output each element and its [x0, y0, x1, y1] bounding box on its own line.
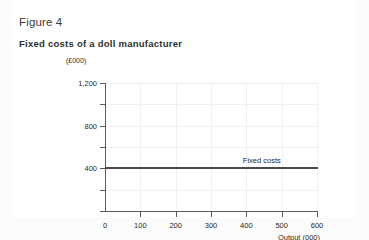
- fixed-costs-chart: (£000) Fixed costs Output (000) 4008001,…: [12, 55, 356, 218]
- x-axis-tick-label: 400: [240, 221, 253, 224]
- y-axis-tick: [100, 211, 105, 212]
- figure-card: Figure 4 Fixed costs of a doll manufactu…: [12, 0, 356, 218]
- y-axis-tick-label: 1,200: [78, 79, 97, 88]
- y-axis-unit-label: (£000): [66, 57, 86, 64]
- gridline-vertical: [282, 83, 283, 211]
- gridline-vertical: [211, 83, 212, 211]
- y-axis-tick: [100, 104, 105, 105]
- y-axis-tick: [100, 83, 105, 84]
- fixed-costs-series-line: [105, 167, 318, 169]
- y-axis-tick-label: 400: [84, 164, 97, 173]
- gridline-vertical: [140, 83, 141, 211]
- x-axis-tick: [140, 212, 141, 217]
- x-axis-tick: [246, 212, 247, 217]
- x-axis-tick-label: 600: [311, 221, 324, 224]
- gridline-vertical: [176, 83, 177, 211]
- x-axis-tick: [317, 212, 318, 217]
- x-axis-tick: [282, 212, 283, 217]
- x-axis-tick-label: 100: [134, 221, 147, 224]
- x-axis-tick-label: 200: [169, 221, 182, 224]
- figure-subtitle: Fixed costs of a doll manufacturer: [19, 38, 182, 49]
- gridline-vertical: [317, 83, 318, 211]
- x-axis-tick: [176, 212, 177, 217]
- y-axis-tick: [100, 126, 105, 127]
- x-axis-tick-label: 300: [205, 221, 218, 224]
- x-axis-tick: [211, 212, 212, 217]
- y-axis-line: [105, 83, 106, 212]
- y-axis-tick: [100, 190, 105, 191]
- y-axis-tick-label: 800: [84, 121, 97, 130]
- x-axis-tick-label: 500: [275, 221, 288, 224]
- y-axis-tick: [100, 147, 105, 148]
- figure-title: Figure 4: [19, 16, 62, 28]
- y-axis-tick: [100, 168, 105, 169]
- x-axis-tick-label: 0: [103, 221, 107, 224]
- fixed-costs-series-label: Fixed costs: [243, 156, 281, 165]
- gridline-vertical: [246, 83, 247, 211]
